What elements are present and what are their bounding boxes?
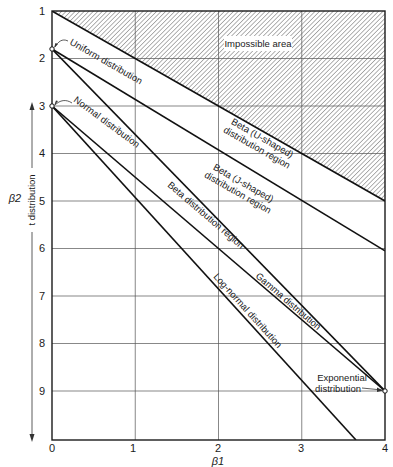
- y-tick: 4: [39, 147, 45, 159]
- x-axis-ticks: 0 1 2 3 4: [49, 442, 388, 454]
- x-tick: 1: [130, 442, 136, 454]
- t-distribution-label: t distribution: [26, 174, 37, 225]
- x-tick: 2: [215, 442, 221, 454]
- impossible-area-label: Impossible area: [224, 38, 292, 49]
- y-tick: 5: [39, 195, 45, 207]
- exponential-point: [383, 389, 387, 393]
- y-axis-title: β2: [8, 192, 21, 204]
- y-tick: 3: [39, 100, 45, 112]
- y-tick: 2: [39, 52, 45, 64]
- y-tick: 9: [39, 385, 45, 397]
- pearson-diagram: 1 2 3 4 5 6 7 8 9 0 1 2 3 4 β1 β2 t dist…: [0, 0, 393, 467]
- beta-j-label: Beta (J-shaped) distribution region: [203, 159, 279, 215]
- exponential-label: Exponential distribution: [315, 372, 367, 394]
- y-tick: 1: [39, 5, 45, 17]
- y-tick: 7: [39, 290, 45, 302]
- y-tick: 6: [39, 242, 45, 254]
- x-tick: 3: [298, 442, 304, 454]
- x-tick: 0: [49, 442, 55, 454]
- x-axis-title: β1: [211, 455, 224, 467]
- normal-point: [50, 104, 54, 108]
- t-distribution-arrow: t distribution: [26, 102, 37, 442]
- y-tick: 8: [39, 337, 45, 349]
- svg-text:distribution: distribution: [315, 383, 361, 394]
- normal-label: Normal distribution: [72, 94, 142, 150]
- svg-text:Exponential: Exponential: [317, 372, 367, 383]
- uniform-point: [50, 47, 54, 51]
- y-axis-ticks: 1 2 3 4 5 6 7 8 9: [39, 5, 45, 397]
- uniform-pointer: [55, 40, 68, 47]
- x-tick: 4: [382, 442, 388, 454]
